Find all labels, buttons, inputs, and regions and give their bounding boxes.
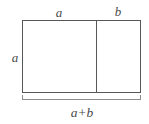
label-bottom-total: a+b xyxy=(71,106,94,120)
outer-rectangle xyxy=(23,21,141,93)
bottom-brace xyxy=(23,95,141,100)
label-top-segment-b: b xyxy=(115,5,122,18)
geometry-figure: a b a a+b xyxy=(0,0,149,124)
label-left-side-a: a xyxy=(12,51,19,64)
label-top-segment-a: a xyxy=(56,6,63,19)
